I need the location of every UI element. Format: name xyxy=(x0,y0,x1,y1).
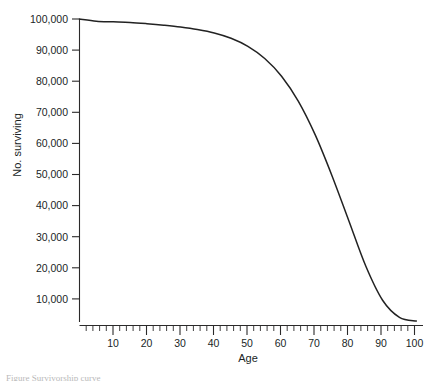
x-tick-label: 10 xyxy=(107,337,119,349)
y-axis-tick-labels: 100,000 90,000 80,000 70,000 60,000 50,0… xyxy=(30,13,68,305)
y-tick-label: 90,000 xyxy=(36,44,68,56)
survivorship-figure: 100,000 90,000 80,000 70,000 60,000 50,0… xyxy=(0,0,433,381)
y-tick-label: 80,000 xyxy=(36,75,68,87)
y-tick-label: 20,000 xyxy=(36,262,68,274)
survivorship-chart: 100,000 90,000 80,000 70,000 60,000 50,0… xyxy=(0,0,433,381)
x-axis-major-ticks xyxy=(113,326,415,336)
x-axis-title: Age xyxy=(238,352,258,364)
x-tick-label: 60 xyxy=(275,337,287,349)
y-tick-label: 30,000 xyxy=(36,231,68,243)
x-tick-label: 20 xyxy=(141,337,153,349)
y-axis-title: No. surviving xyxy=(11,113,23,177)
y-tick-label: 10,000 xyxy=(36,293,68,305)
y-tick-label: 60,000 xyxy=(36,137,68,149)
x-axis-tick-labels: 10 20 30 40 50 60 70 80 90 100 xyxy=(107,337,423,349)
x-tick-label: 100 xyxy=(406,337,424,349)
x-tick-label: 40 xyxy=(208,337,220,349)
y-axis-ticks xyxy=(72,19,80,299)
y-tick-label: 70,000 xyxy=(36,106,68,118)
x-tick-label: 70 xyxy=(308,337,320,349)
survivorship-curve-line xyxy=(80,19,417,321)
y-tick-label: 40,000 xyxy=(36,199,68,211)
y-tick-label: 100,000 xyxy=(30,13,68,25)
x-tick-label: 80 xyxy=(342,337,354,349)
y-tick-label: 50,000 xyxy=(36,168,68,180)
figure-caption: Figure Survivorship curve xyxy=(6,373,433,381)
x-tick-label: 50 xyxy=(241,337,253,349)
x-tick-label: 30 xyxy=(174,337,186,349)
x-tick-label: 90 xyxy=(375,337,387,349)
